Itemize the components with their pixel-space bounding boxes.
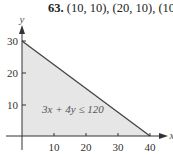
inequality-annotation: 3x + 4y ≤ 120 <box>41 103 104 115</box>
x-tick-label: 30 <box>113 141 125 153</box>
y-tick-label: 20 <box>7 67 19 79</box>
y-axis-arrow-icon <box>19 25 25 34</box>
x-axis-label: x <box>169 129 173 141</box>
x-tick-label: 10 <box>49 141 61 153</box>
feasible-region-chart: 10 20 30 40 10 20 30 y x 3x + 4y ≤ 120 <box>0 0 173 155</box>
y-tick-label: 30 <box>7 35 19 47</box>
x-tick-label: 40 <box>145 141 157 153</box>
y-axis-label: y <box>19 13 25 25</box>
x-axis-arrow-icon <box>159 133 168 139</box>
y-tick-label: 10 <box>7 99 19 111</box>
x-tick-label: 20 <box>81 141 93 153</box>
